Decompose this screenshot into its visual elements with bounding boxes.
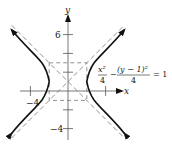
eq-term1-numerator: x² — [98, 65, 106, 74]
eq-term2-denominator: 4 — [131, 76, 136, 85]
y-tick-label-6: 6 — [55, 30, 61, 40]
eq-term1-denominator: 4 — [100, 76, 105, 85]
left-branch — [12, 30, 50, 134]
eq-rhs: = 1 — [153, 70, 167, 79]
hyperbola-graph: y x 6 −4 −4 x² 4 − (y − 1)² 4 = 1 — [0, 0, 172, 157]
x-axis-label: x — [124, 86, 129, 96]
eq-term2-numerator: (y − 1)² — [117, 65, 148, 74]
x-tick-label-neg4: −4 — [26, 98, 40, 108]
right-branch — [87, 30, 125, 134]
y-axis-label: y — [64, 5, 71, 15]
eq-minus: − — [110, 70, 117, 79]
y-tick-label-neg4: −4 — [50, 124, 64, 134]
equation-label: x² 4 − (y − 1)² 4 = 1 — [98, 65, 167, 85]
